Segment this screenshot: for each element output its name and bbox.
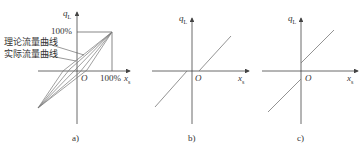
panel-a-x-label: xs [124, 74, 130, 85]
panel-c-origin: O [305, 74, 312, 83]
panel-b-y-label: qL [179, 14, 187, 25]
theory-curve-label: 理论流量曲线 [4, 38, 58, 47]
panel-a-y-label: qL [63, 9, 71, 20]
curve-upper [301, 30, 334, 63]
panel-b-caption: b) [188, 134, 196, 143]
curve-right [199, 36, 231, 71]
curve-lower [268, 79, 301, 112]
panel-a-x-tick: 100% [100, 74, 121, 83]
actual-curve-label: 实际流量曲线 [4, 50, 58, 59]
panel-c-y-label: qL [288, 14, 296, 25]
panel-a-y-tick: 100% [51, 27, 72, 36]
panel-c-graph [262, 18, 358, 124]
curve-left [155, 71, 187, 107]
panel-a-caption: a) [72, 134, 79, 143]
panel-a-origin: O [81, 74, 88, 83]
panel-c-x-label: xs [347, 74, 353, 85]
panel-b-origin: O [195, 74, 202, 83]
panel-b-x-label: xs [238, 74, 244, 85]
panel-c-caption: c) [297, 134, 304, 143]
panel-b-graph [152, 18, 249, 124]
